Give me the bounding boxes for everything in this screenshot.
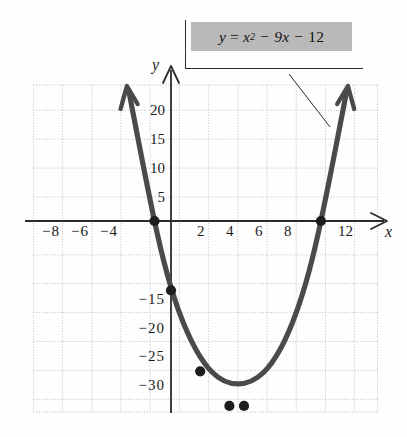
eq-term2: 9x xyxy=(274,28,289,46)
eq-minus-1: − xyxy=(260,28,269,46)
eq-lhs: y xyxy=(219,28,226,46)
x-tick--6: −6 xyxy=(71,224,89,239)
x-tick-2: 2 xyxy=(197,224,205,239)
y-tick--25: −25 xyxy=(128,349,165,364)
y-tick--30: −30 xyxy=(128,378,165,393)
x-tick-6: 6 xyxy=(255,224,263,239)
x-axis-label: x xyxy=(385,224,392,240)
coordinate-plot xyxy=(0,0,407,437)
x-tick-4: 4 xyxy=(226,224,234,239)
eq-term3: 12 xyxy=(308,28,324,46)
x-tick-8: 8 xyxy=(284,224,292,239)
point-x-intercept-right xyxy=(316,216,326,226)
y-tick-20: 20 xyxy=(143,103,165,118)
eq-minus-2: − xyxy=(294,28,303,46)
point-y-intercept xyxy=(166,285,176,295)
x-tick--4: −4 xyxy=(100,224,118,239)
point-vertex-left xyxy=(224,401,234,411)
y-tick--20: −20 xyxy=(128,321,165,336)
graph-figure: y = x2 − 9x − 12 y x −8 −6 −4 2 4 6 8 12… xyxy=(0,0,407,437)
y-tick--15: −15 xyxy=(128,292,165,307)
point-2-neg26 xyxy=(195,366,205,376)
y-axis-label: y xyxy=(152,57,159,73)
equation-callout: y = x2 − 9x − 12 xyxy=(191,22,352,51)
point-vertex-right xyxy=(239,401,249,411)
eq-term1: x xyxy=(243,28,250,46)
eq-exponent: 2 xyxy=(250,31,255,42)
eq-equals: = xyxy=(230,28,239,46)
y-tick-15: 15 xyxy=(143,132,165,147)
callout-leader xyxy=(289,74,330,127)
x-tick-12: 12 xyxy=(338,224,353,239)
point-x-intercept-left xyxy=(149,216,159,226)
y-axis xyxy=(163,66,179,413)
y-tick-5: 5 xyxy=(143,190,165,205)
x-tick--8: −8 xyxy=(42,224,60,239)
y-tick-10: 10 xyxy=(143,161,165,176)
